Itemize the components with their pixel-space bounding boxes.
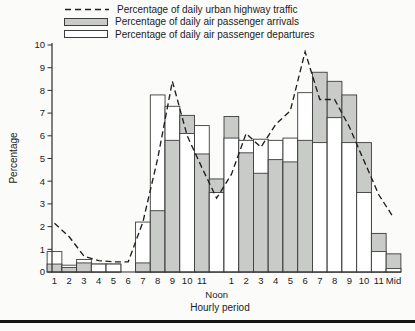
arrivals-bar bbox=[298, 140, 313, 272]
y-tick-label: 8 bbox=[40, 85, 45, 96]
arrivals-bar bbox=[283, 162, 298, 272]
x-tick-label: 8 bbox=[332, 275, 337, 286]
x-tick-label: 3 bbox=[81, 275, 86, 286]
legend-label-departures: Percentage of daily air passenger depart… bbox=[115, 29, 315, 40]
x-tick-label: 3 bbox=[258, 275, 263, 286]
arrivals-bar bbox=[195, 154, 210, 272]
x-tick-label: 7 bbox=[317, 275, 322, 286]
x-tick-label: 9 bbox=[347, 275, 352, 286]
arrivals-bar bbox=[239, 153, 254, 272]
gray-bar-swatch bbox=[64, 18, 108, 26]
chart-canvas: 01234567891012345678910111234567891011Mi… bbox=[0, 0, 415, 331]
departures-bar bbox=[312, 143, 327, 272]
legend-item-departures: Percentage of daily air passenger depart… bbox=[64, 28, 315, 40]
y-tick-label: 10 bbox=[34, 39, 45, 50]
y-tick-label: 1 bbox=[40, 244, 45, 255]
page-divider-rule bbox=[0, 320, 415, 323]
y-tick-label: 5 bbox=[40, 153, 45, 164]
x-tick-label: 7 bbox=[140, 275, 145, 286]
legend-label-arrivals: Percentage of daily air passenger arriva… bbox=[115, 16, 299, 27]
chart-figure: 01234567891012345678910111234567891011Mi… bbox=[0, 0, 415, 331]
legend-item-highway-traffic: Percentage of daily urban highway traffi… bbox=[64, 3, 315, 15]
departures-bar bbox=[180, 134, 195, 272]
departures-bar bbox=[371, 252, 386, 272]
y-tick-label: 9 bbox=[40, 62, 45, 73]
y-tick-label: 6 bbox=[40, 130, 45, 141]
departures-bar bbox=[224, 138, 239, 272]
x-tick-label: 5 bbox=[111, 275, 116, 286]
x-tick-label: 1 bbox=[52, 275, 57, 286]
legend-label-highway-traffic: Percentage of daily urban highway traffi… bbox=[117, 4, 297, 15]
x-tick-label: 4 bbox=[273, 275, 278, 286]
departures-bar bbox=[327, 118, 342, 272]
departures-bar bbox=[209, 193, 224, 272]
x-tick-label: 2 bbox=[67, 275, 72, 286]
departures-bar bbox=[91, 264, 106, 272]
x-axis-title: Hourly period bbox=[190, 302, 249, 313]
arrivals-bar bbox=[165, 140, 180, 272]
y-tick-label: 7 bbox=[40, 107, 45, 118]
x-tick-label: 1 bbox=[229, 275, 234, 286]
y-axis-title: Percentage bbox=[8, 132, 19, 183]
dashed-line-swatch bbox=[64, 5, 110, 14]
x-tick-label: 10 bbox=[359, 275, 370, 286]
y-tick-label: 3 bbox=[40, 198, 45, 209]
legend-item-arrivals: Percentage of daily air passenger arriva… bbox=[64, 16, 315, 28]
arrivals-bar bbox=[136, 263, 151, 272]
x-tick-label: 10 bbox=[182, 275, 193, 286]
x-tick-label: 6 bbox=[126, 275, 131, 286]
y-tick-label: 4 bbox=[40, 176, 45, 187]
x-tick-label: 11 bbox=[374, 275, 384, 286]
arrivals-bar bbox=[150, 211, 165, 272]
departures-bar bbox=[342, 143, 357, 272]
x-tick-label: 6 bbox=[302, 275, 307, 286]
arrivals-bar bbox=[47, 264, 62, 272]
x-tick-label: Mid bbox=[386, 275, 401, 286]
x-tick-label: 2 bbox=[243, 275, 248, 286]
x-tick-label: 5 bbox=[288, 275, 293, 286]
departures-bar bbox=[106, 264, 121, 272]
arrivals-bar bbox=[268, 160, 283, 272]
departures-bar bbox=[357, 193, 372, 272]
arrivals-bar bbox=[62, 267, 77, 272]
y-tick-label: 2 bbox=[40, 221, 45, 232]
white-bar-swatch bbox=[64, 30, 108, 38]
x-tick-label: 4 bbox=[96, 275, 101, 286]
x-tick-label: 11 bbox=[197, 275, 207, 286]
x-tick-label: 8 bbox=[155, 275, 160, 286]
legend: Percentage of daily urban highway traffi… bbox=[64, 3, 315, 41]
y-tick-label: 0 bbox=[40, 266, 45, 277]
arrivals-bar bbox=[253, 173, 268, 272]
x-axis-noon-label: Noon bbox=[205, 289, 228, 300]
arrivals-bar bbox=[77, 263, 92, 272]
x-tick-label: 9 bbox=[170, 275, 175, 286]
